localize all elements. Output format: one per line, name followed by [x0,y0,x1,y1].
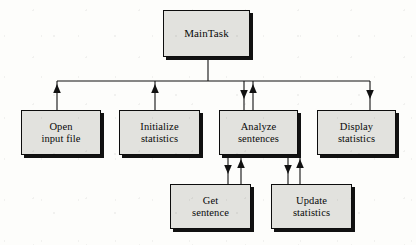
node-main-task[interactable]: MainTask [163,10,250,57]
node-open-input-file[interactable]: Open input file [21,110,101,155]
node-get-sentence-label: Get sentence [171,195,250,219]
node-open-input-file-label: Open input file [22,121,100,145]
node-initialize-statistics[interactable]: Initialize statistics [119,110,200,155]
structure-chart-diagram: MainTask Open input file Initialize stat… [0,0,416,245]
node-initialize-statistics-label: Initialize statistics [120,121,199,145]
node-analyze-sentences-label: Analyze sentences [220,121,297,145]
node-update-statistics[interactable]: Update statistics [271,184,352,229]
node-display-statistics[interactable]: Display statistics [317,110,396,155]
node-update-statistics-label: Update statistics [272,195,351,219]
node-display-statistics-label: Display statistics [318,121,395,145]
node-main-task-label: MainTask [164,27,249,39]
node-get-sentence[interactable]: Get sentence [170,184,251,229]
node-analyze-sentences[interactable]: Analyze sentences [219,110,298,155]
